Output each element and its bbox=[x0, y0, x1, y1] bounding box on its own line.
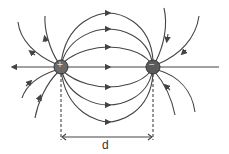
field-lines bbox=[0, 0, 229, 154]
dipole-diagram: + − d bbox=[0, 0, 229, 154]
separation-label: d bbox=[102, 138, 109, 152]
positive-charge-label: + bbox=[57, 59, 63, 70]
negative-charge-label: − bbox=[149, 59, 155, 70]
